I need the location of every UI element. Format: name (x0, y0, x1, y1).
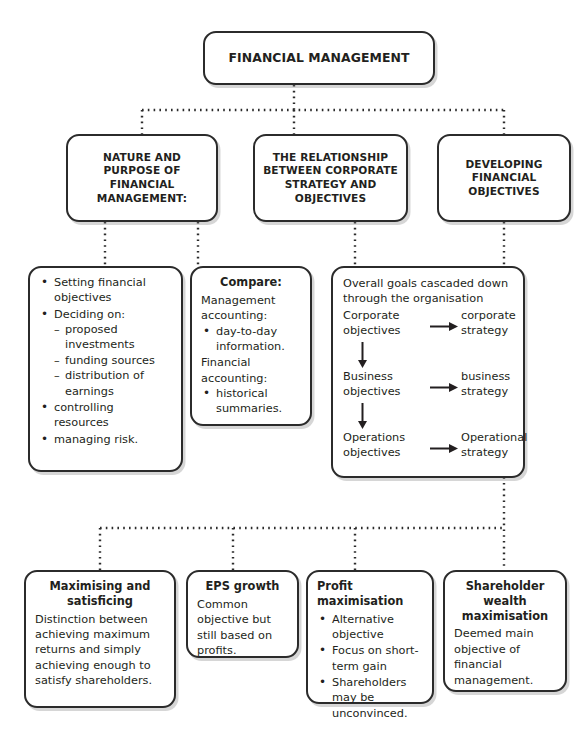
sub-list-item: funding sources (54, 353, 172, 368)
node-eps-growth-body: Common objective but still based on prof… (197, 597, 288, 658)
list-item-text: Alternative objective (332, 613, 394, 641)
cascade-spacer (427, 402, 461, 430)
cascade-spacer (461, 402, 527, 430)
cascade-strategy-business: business strategy (461, 369, 527, 399)
node-nature-and-purpose-label: NATURE AND PURPOSE OF FINANCIAL MANAGEME… (68, 136, 216, 220)
sub-list-item: distribution of earnings (54, 368, 172, 399)
node-profit-maximisation[interactable]: Profit maximisation Alternative objectiv… (306, 570, 434, 704)
node-developing-financial-objectives-label: DEVELOPING FINANCIAL OBJECTIVES (439, 136, 569, 220)
list-item-text: Focus on short-term gain (332, 644, 419, 672)
compare-group-two-label: Financial accounting: (201, 355, 301, 386)
cascade-strategy-corporate: corporate strategy (461, 308, 527, 338)
cascade-strategy-operational: Operational strategy (461, 430, 527, 460)
node-shareholder-wealth-maximisation-body: Deemed main objective of financial manag… (454, 626, 556, 687)
nature-detail-bullets: Setting financial objectives Deciding on… (39, 275, 172, 447)
node-nature-detail-list[interactable]: Setting financial objectives Deciding on… (28, 266, 183, 472)
cascade-objective-corporate: Corporate objectives (343, 308, 427, 338)
list-item: Focus on short-term gain (317, 643, 423, 674)
node-profit-maximisation-heading: Profit maximisation (317, 579, 423, 609)
node-compare-heading: Compare: (201, 275, 301, 290)
list-item: managing risk. (39, 432, 172, 447)
list-item-text: historical summaries. (216, 387, 282, 415)
list-item-text: Shareholders may be unconvinced. (332, 676, 408, 720)
arrow-down-icon (343, 402, 427, 430)
list-item: Setting financial objectives (39, 275, 172, 306)
list-item: controlling resources (39, 400, 172, 431)
cascade-spacer (461, 341, 527, 369)
node-relationship-strategy-objectives[interactable]: THE RELATIONSHIP BETWEEN CORPORATE STRAT… (253, 134, 408, 222)
arrow-right-icon (427, 369, 461, 402)
arrow-down-icon (343, 341, 427, 369)
compare-group-one-label: Management accounting: (201, 293, 301, 324)
cascade-intro-text: Overall goals cascaded down through the … (343, 276, 513, 306)
compare-group-one-items: day-to-day information. (201, 324, 301, 355)
list-item-text: managing risk. (54, 433, 138, 446)
list-item-text: Deciding on: (54, 308, 125, 321)
arrow-right-icon (427, 308, 461, 341)
node-goals-cascade[interactable]: Overall goals cascaded down through the … (331, 266, 525, 478)
cascade-grid: Corporate objectives corporate strategy (343, 308, 513, 463)
sub-list-item-text: distribution of earnings (65, 369, 144, 397)
node-shareholder-wealth-maximisation[interactable]: Shareholder wealth maximisation Deemed m… (443, 570, 567, 692)
list-item: Alternative objective (317, 612, 423, 643)
list-item: Shareholders may be unconvinced. (317, 675, 423, 721)
arrow-right-icon (427, 430, 461, 463)
list-item: historical summaries. (201, 386, 301, 417)
node-eps-growth-heading: EPS growth (197, 579, 288, 594)
list-item: day-to-day information. (201, 324, 301, 355)
node-shareholder-wealth-maximisation-heading: Shareholder wealth maximisation (454, 579, 556, 623)
sub-list-item-text: proposed investments (65, 323, 135, 351)
cascade-objective-business: Business objectives (343, 369, 427, 399)
list-item-text: Setting financial objectives (54, 276, 146, 304)
node-relationship-strategy-objectives-label: THE RELATIONSHIP BETWEEN CORPORATE STRAT… (255, 136, 406, 220)
node-eps-growth[interactable]: EPS growth Common objective but still ba… (186, 570, 299, 658)
list-item-text: controlling resources (54, 401, 114, 429)
node-developing-financial-objectives[interactable]: DEVELOPING FINANCIAL OBJECTIVES (437, 134, 571, 222)
node-maximising-satisficing-heading: Maximising and satisficing (35, 579, 165, 609)
list-item: Deciding on: proposed investments fundin… (39, 307, 172, 399)
cascade-objective-operations: Operations objectives (343, 430, 427, 460)
node-maximising-satisficing[interactable]: Maximising and satisficing Distinction b… (24, 570, 176, 708)
node-maximising-satisficing-body: Distinction between achieving maximum re… (35, 612, 165, 689)
nature-sub-bullets: proposed investments funding sources dis… (54, 322, 172, 399)
sub-list-item: proposed investments (54, 322, 172, 353)
diagram-canvas: FINANCIAL MANAGEMENT NATURE AND PURPOSE … (0, 0, 588, 743)
profit-maximisation-bullets: Alternative objective Focus on short-ter… (317, 612, 423, 722)
compare-group-two-items: historical summaries. (201, 386, 301, 417)
cascade-spacer (427, 341, 461, 369)
node-financial-management[interactable]: FINANCIAL MANAGEMENT (203, 31, 435, 85)
node-nature-and-purpose[interactable]: NATURE AND PURPOSE OF FINANCIAL MANAGEME… (66, 134, 218, 222)
list-item-text: day-to-day information. (216, 325, 285, 353)
node-financial-management-label: FINANCIAL MANAGEMENT (205, 33, 433, 83)
sub-list-item-text: funding sources (65, 354, 155, 367)
node-compare-accounting[interactable]: Compare: Management accounting: day-to-d… (190, 266, 312, 426)
